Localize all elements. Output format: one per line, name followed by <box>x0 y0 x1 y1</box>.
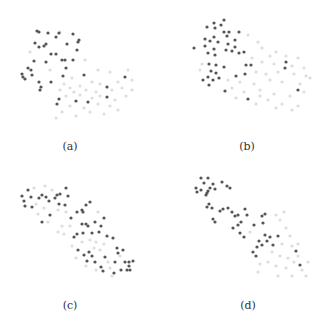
data-point-class-2 <box>78 93 81 96</box>
data-point-class-1 <box>206 189 209 192</box>
data-point-class-1 <box>32 59 35 62</box>
data-point-class-1 <box>111 236 114 239</box>
data-point-class-1 <box>268 235 271 238</box>
data-point-class-1 <box>87 250 90 253</box>
data-point-class-2 <box>74 114 77 117</box>
data-point-class-1 <box>227 30 230 33</box>
data-point-class-1 <box>207 62 210 65</box>
data-point-class-1 <box>242 50 245 53</box>
data-point-class-1 <box>214 71 217 74</box>
data-point-class-1 <box>208 39 211 42</box>
data-point-class-1 <box>236 213 239 216</box>
data-point-class-2 <box>288 94 291 97</box>
data-point-class-2 <box>34 202 37 205</box>
data-point-class-2 <box>64 94 67 97</box>
data-point-class-1 <box>29 68 32 71</box>
scatter-plot-c <box>20 184 134 277</box>
data-point-class-1 <box>37 196 40 199</box>
data-point-class-1 <box>33 41 36 44</box>
data-point-class-1 <box>276 234 279 237</box>
data-point-class-2 <box>110 88 113 91</box>
data-point-class-2 <box>290 244 293 247</box>
data-point-class-1 <box>226 206 229 209</box>
data-point-class-1 <box>212 21 215 24</box>
data-point-class-1 <box>254 254 257 257</box>
data-point-class-1 <box>220 180 223 183</box>
data-point-class-2 <box>258 262 261 265</box>
data-point-class-1 <box>237 30 240 33</box>
data-point-class-2 <box>270 250 273 253</box>
data-point-class-2 <box>276 274 279 277</box>
data-point-class-1 <box>208 186 211 189</box>
data-point-class-1 <box>211 78 214 81</box>
data-point-class-2 <box>242 90 245 93</box>
data-point-class-2 <box>292 72 295 75</box>
data-point-class-2 <box>256 40 259 43</box>
data-point-class-1 <box>260 214 263 217</box>
figure-canvas <box>0 0 329 324</box>
data-point-class-1 <box>230 49 233 52</box>
data-point-class-2 <box>96 68 99 71</box>
data-point-class-1 <box>213 220 216 223</box>
data-point-class-2 <box>94 268 97 271</box>
data-point-class-2 <box>102 242 105 245</box>
data-point-class-1 <box>84 203 87 206</box>
data-point-class-2 <box>280 242 283 245</box>
data-point-class-1 <box>26 188 29 191</box>
data-point-class-1 <box>214 63 217 66</box>
data-point-class-1 <box>82 253 85 256</box>
data-point-class-2 <box>234 96 237 99</box>
data-point-class-2 <box>88 238 91 241</box>
data-point-class-2 <box>124 94 127 97</box>
data-point-class-2 <box>256 270 259 273</box>
data-point-class-2 <box>28 50 31 53</box>
data-point-class-2 <box>94 90 97 93</box>
data-point-class-1 <box>23 204 26 207</box>
data-point-class-1 <box>90 254 93 257</box>
data-point-class-1 <box>99 265 102 268</box>
data-point-class-1 <box>30 205 33 208</box>
data-point-class-2 <box>280 80 283 83</box>
data-point-class-2 <box>278 218 281 221</box>
data-point-class-1 <box>37 30 40 33</box>
data-point-class-2 <box>274 213 277 216</box>
data-point-class-2 <box>296 104 299 107</box>
data-point-class-2 <box>272 62 275 65</box>
data-point-class-2 <box>238 80 241 83</box>
data-point-class-2 <box>116 108 119 111</box>
data-point-class-2 <box>108 104 111 107</box>
data-point-class-2 <box>98 248 101 251</box>
data-point-class-1 <box>55 102 58 105</box>
data-point-class-1 <box>199 188 202 191</box>
data-point-class-1 <box>263 233 266 236</box>
data-point-class-1 <box>40 193 43 196</box>
data-point-class-2 <box>284 226 287 229</box>
data-point-class-1 <box>81 231 84 234</box>
data-point-class-1 <box>49 80 52 83</box>
data-point-class-1 <box>217 76 220 79</box>
data-point-class-2 <box>98 94 101 97</box>
data-point-class-1 <box>203 37 206 40</box>
data-point-class-1 <box>57 202 60 205</box>
data-point-class-1 <box>230 210 233 213</box>
data-point-class-1 <box>260 243 263 246</box>
data-point-class-1 <box>231 226 234 229</box>
data-point-class-2 <box>272 92 275 95</box>
data-point-class-2 <box>60 224 63 227</box>
data-point-class-2 <box>102 112 105 115</box>
data-point-class-2 <box>68 224 71 227</box>
data-point-class-1 <box>69 216 72 219</box>
data-point-class-1 <box>243 207 246 210</box>
data-point-class-1 <box>205 205 208 208</box>
data-point-class-2 <box>113 98 116 101</box>
data-point-class-1 <box>222 18 225 21</box>
data-point-class-2 <box>260 46 263 49</box>
data-point-class-1 <box>23 77 26 80</box>
data-point-class-2 <box>292 260 295 263</box>
data-point-class-2 <box>64 210 67 213</box>
data-point-class-1 <box>298 263 301 266</box>
data-point-class-1 <box>44 195 47 198</box>
data-point-class-1 <box>211 182 214 185</box>
data-point-class-1 <box>55 193 58 196</box>
data-point-class-1 <box>243 72 246 75</box>
